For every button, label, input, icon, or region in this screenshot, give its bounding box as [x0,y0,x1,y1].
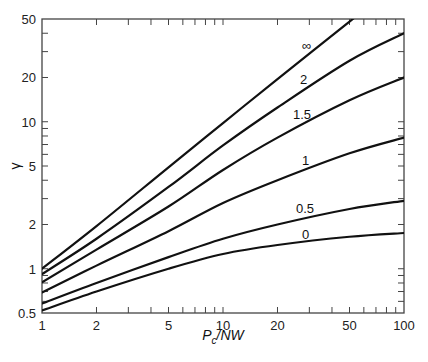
curve-label: ∞ [302,38,311,53]
x-tick-label: 2 [93,318,100,333]
curve-label: 0.5 [296,201,314,216]
curve-1.5 [42,77,404,282]
y-tick-label: 50 [22,12,36,27]
curve-label: 1 [302,153,309,168]
curve-0.5 [42,201,404,304]
curve-1 [42,138,404,293]
x-tick-label: 50 [342,318,356,333]
curve-label: 2 [300,72,307,87]
y-tick-label: 0.5 [18,306,36,321]
y-tick-label: 20 [22,70,36,85]
x-tick-label: 1 [38,318,45,333]
plot-frame [42,19,404,313]
chart-figure: 125102050100 0.5125102050 ∞21.510.50 Pc/… [0,0,428,362]
y-axis-title: γ [7,163,23,170]
curves [42,0,404,310]
plot-border [42,19,404,313]
axis-ticks [42,19,404,313]
x-tick-label: 100 [393,318,415,333]
y-tick-label: 1 [29,262,36,277]
curve-∞ [42,0,404,269]
curve-labels: ∞21.510.50 [293,38,314,242]
curve-label: 0 [302,227,309,242]
x-axis-title: Pc/NW [202,327,245,346]
curve-label: 1.5 [293,107,311,122]
y-tick-label: 2 [29,217,36,232]
x-tick-label: 20 [270,318,284,333]
curve-0 [42,233,404,310]
y-tick-label: 10 [22,115,36,130]
x-tick-label: 5 [165,318,172,333]
y-tick-label: 5 [29,159,36,174]
